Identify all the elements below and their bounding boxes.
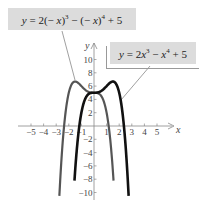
- x-tick-label: 5: [155, 127, 160, 137]
- y-tick-label: 10: [84, 55, 94, 65]
- y-tick-label: −6: [83, 161, 93, 171]
- y-tick-label: −2: [83, 134, 93, 144]
- y-tick-label: −4: [83, 148, 93, 158]
- y-tick-label: −10: [78, 188, 93, 198]
- x-tick-label: −3: [51, 127, 61, 137]
- y-tick-label: 4: [88, 94, 93, 104]
- x-axis-label: x: [175, 124, 181, 135]
- y-tick-label: 6: [88, 81, 93, 91]
- x-tick-label: 4: [142, 127, 147, 137]
- x-tick-label: −5: [26, 127, 36, 137]
- x-tick-label: −4: [39, 127, 49, 137]
- y-tick-label: 8: [88, 68, 93, 78]
- x-tick-label: 2: [117, 127, 122, 137]
- chart-plot: xy−5−4−3−2−112345108642−2−4−6−8−10: [0, 0, 204, 212]
- y-axis-label: y: [84, 40, 90, 51]
- x-tick-label: 3: [130, 127, 135, 137]
- equation-label-reflected: y = 2(− x)3 − (− x)4 + 5: [8, 8, 136, 30]
- x-tick-label: −2: [64, 127, 74, 137]
- y-tick-label: 2: [88, 108, 93, 118]
- equation-label-original: y = 2x3 − x4 + 5: [110, 42, 196, 64]
- y-tick-label: −8: [83, 174, 93, 184]
